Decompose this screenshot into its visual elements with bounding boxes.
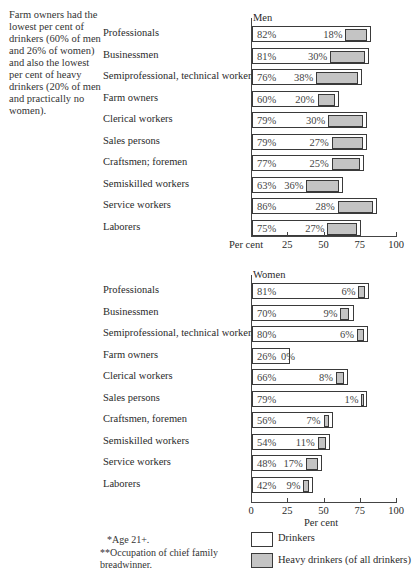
drinkers-value: 79% <box>257 393 276 406</box>
x-tick <box>287 232 288 237</box>
drinkers-bar: 42%9% <box>252 477 313 493</box>
heavy-drinkers-value: 6% <box>341 285 355 298</box>
heavy-drinkers-bar <box>330 51 365 63</box>
category-label: Craftsmen; foremen <box>103 156 187 167</box>
drinkers-bar: 79%30% <box>252 112 367 128</box>
drinkers-bar: 63%36% <box>252 177 343 193</box>
heavy-drinkers-value: 27% <box>305 222 324 235</box>
heavy-drinkers-bar <box>327 223 356 235</box>
drinkers-value: 77% <box>257 157 276 170</box>
footnote-age: *Age 21+. <box>107 534 149 546</box>
category-label: Clerical workers <box>103 370 173 381</box>
x-tick <box>360 232 361 237</box>
heavy-drinkers-bar <box>306 458 318 470</box>
category-label: Semiskilled workers <box>103 178 189 189</box>
drinkers-value: 79% <box>257 136 276 149</box>
drinkers-value: 70% <box>257 307 276 320</box>
drinkers-value: 75% <box>257 222 276 235</box>
heavy-drinkers-bar <box>357 329 364 341</box>
category-label: Farm owners <box>103 349 158 360</box>
drinkers-value: 60% <box>257 93 276 106</box>
heavy-drinkers-value: 11% <box>296 436 315 449</box>
category-label: Semiprofessional, technical workers <box>103 70 256 81</box>
heavy-drinkers-bar <box>336 372 344 384</box>
x-axis-label: Per cent <box>304 517 338 528</box>
x-tick-label: 25 <box>282 505 293 516</box>
heavy-drinkers-value: 0% <box>281 350 295 363</box>
category-label: Sales persons <box>103 135 160 146</box>
heavy-drinkers-value: 18% <box>323 28 342 41</box>
heavy-drinkers-value: 7% <box>307 414 321 427</box>
heavy-drinkers-bar <box>318 437 327 449</box>
panel-title: Women <box>253 269 285 280</box>
x-tick-label: 50 <box>318 505 329 516</box>
drinkers-value: 42% <box>257 479 276 492</box>
drinkers-value: 81% <box>257 50 276 63</box>
legend-drinkers-swatch <box>251 532 273 547</box>
heavy-drinkers-bar <box>332 158 360 170</box>
heavy-drinkers-value: 36% <box>284 179 303 192</box>
heavy-drinkers-bar <box>316 72 358 84</box>
x-tick-label: 25 <box>282 239 293 250</box>
heavy-drinkers-bar <box>303 480 308 492</box>
drinkers-value: 76% <box>257 71 276 84</box>
category-label: Semiprofessional, technical workers <box>103 327 256 338</box>
x-tick-label: Per cent <box>229 239 263 250</box>
x-tick-label: 100 <box>388 505 404 516</box>
category-label: Craftsmen, foremen <box>103 413 187 424</box>
drinkers-bar: 60%20% <box>252 91 339 107</box>
drinkers-bar: 66%8% <box>252 369 348 385</box>
drinkers-bar: 80%6% <box>252 326 368 342</box>
category-label: Professionals <box>103 27 159 38</box>
heavy-drinkers-bar <box>338 201 373 213</box>
category-label: Professionals <box>103 284 159 295</box>
category-label: Laborers <box>103 478 140 489</box>
heavy-drinkers-bar <box>318 94 335 106</box>
x-tick-label: 75 <box>355 239 366 250</box>
category-label: Service workers <box>103 456 171 467</box>
heavy-drinkers-bar <box>358 286 365 298</box>
drinkers-bar: 56%7% <box>252 412 333 428</box>
category-label: Clerical workers <box>103 113 173 124</box>
x-tick <box>324 232 325 237</box>
drinkers-value: 54% <box>257 436 276 449</box>
legend-heavy-swatch <box>251 553 273 568</box>
x-tick <box>287 498 288 503</box>
drinkers-bar: 48%17% <box>252 455 322 471</box>
heavy-drinkers-bar <box>345 29 366 41</box>
x-tick-label: 50 <box>318 239 329 250</box>
heavy-drinkers-value: 1% <box>344 393 358 406</box>
category-label: Laborers <box>103 221 140 232</box>
heavy-drinkers-value: 27% <box>309 136 328 149</box>
footnote-occupation: **Occupation of chief family breadwinner… <box>100 547 220 571</box>
drinkers-bar: 54%11% <box>252 434 330 450</box>
heavy-drinkers-bar <box>332 137 363 149</box>
heavy-drinkers-value: 8% <box>319 371 333 384</box>
heavy-drinkers-value: 28% <box>316 200 335 213</box>
drinkers-value: 56% <box>257 414 276 427</box>
heavy-drinkers-bar <box>306 180 339 192</box>
heavy-drinkers-bar <box>361 394 364 406</box>
heavy-drinkers-value: 25% <box>309 157 328 170</box>
x-tick <box>324 498 325 503</box>
drinkers-bar: 26%0% <box>252 348 290 364</box>
heavy-drinkers-value: 30% <box>306 114 325 127</box>
drinkers-value: 79% <box>257 114 276 127</box>
category-label: Businessmen <box>103 306 158 317</box>
heavy-drinkers-value: 38% <box>294 71 313 84</box>
category-label: Farm owners <box>103 92 158 103</box>
drinkers-value: 66% <box>257 371 276 384</box>
x-tick-label: 75 <box>355 505 366 516</box>
x-tick-label: 100 <box>388 239 404 250</box>
heavy-drinkers-bar <box>340 308 349 320</box>
legend-heavy-label: Heavy drinkers (of all drinkers) <box>278 554 411 565</box>
drinkers-bar: 86%28% <box>252 198 377 214</box>
side-note: Farm owners had the lowest per cent of d… <box>9 9 101 117</box>
heavy-drinkers-value: 30% <box>308 50 327 63</box>
x-tick <box>396 232 397 237</box>
drinkers-value: 86% <box>257 200 276 213</box>
drinkers-bar: 81%30% <box>252 48 369 64</box>
drinkers-value: 63% <box>257 179 276 192</box>
category-label: Businessmen <box>103 49 158 60</box>
drinkers-bar: 70%9% <box>252 305 354 321</box>
